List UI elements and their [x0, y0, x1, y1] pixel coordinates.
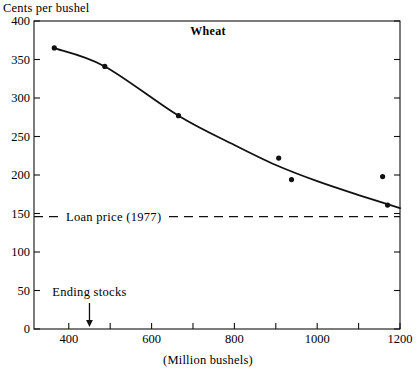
y-tick-label: 300 [0, 91, 30, 106]
plot-canvas [0, 0, 416, 375]
ending-stocks-label: Ending stocks [52, 285, 126, 300]
axis-frame [34, 21, 400, 329]
wheat-price-chart: Cents per bushel Wheat (Million bushels)… [0, 0, 416, 375]
y-tick-label: 50 [0, 283, 30, 298]
y-tick-label: 150 [0, 206, 30, 221]
x-tick-label: 1000 [305, 332, 330, 347]
demand-curve [53, 48, 400, 208]
data-points [52, 45, 390, 207]
y-tick-label: 400 [0, 14, 30, 29]
y-tick-label: 100 [0, 245, 30, 260]
x-tick-label: 600 [142, 332, 161, 347]
ending-stocks-arrow [86, 303, 93, 327]
y-tick-label: 200 [0, 168, 30, 183]
axis-ticks [34, 21, 400, 329]
x-tick-label: 1200 [388, 332, 413, 347]
x-tick-label: 800 [225, 332, 244, 347]
loan-price-label: Loan price (1977) [62, 209, 165, 224]
y-tick-label: 250 [0, 129, 30, 144]
y-tick-label: 0 [0, 322, 30, 337]
x-tick-label: 400 [59, 332, 78, 347]
y-tick-label: 350 [0, 52, 30, 67]
